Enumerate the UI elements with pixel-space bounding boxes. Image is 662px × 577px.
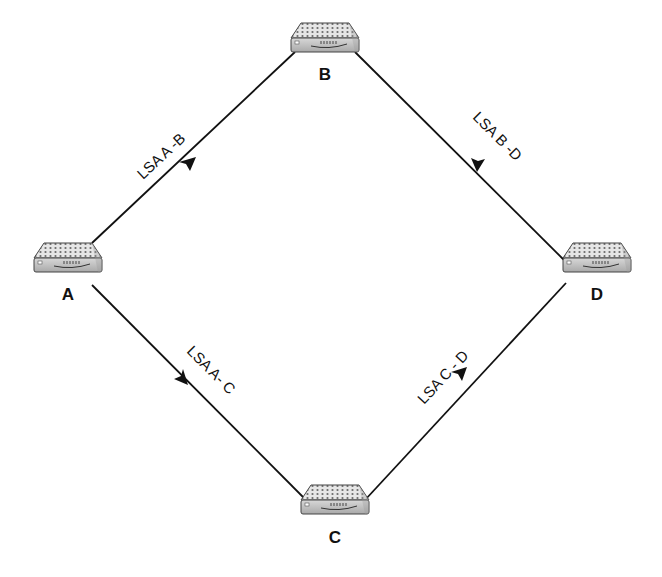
router-icon bbox=[301, 485, 369, 514]
link-b-d: LSA B -D bbox=[355, 52, 566, 262]
node-label-d: D bbox=[591, 285, 603, 304]
router-a[interactable]: A bbox=[34, 243, 102, 304]
router-c[interactable]: C bbox=[301, 485, 369, 547]
node-label-c: C bbox=[329, 528, 341, 547]
node-label-b: B bbox=[319, 65, 331, 84]
link-label-b-d: LSA B -D bbox=[470, 108, 526, 164]
link-c-d: LSA C - D bbox=[365, 283, 566, 500]
router-icon bbox=[291, 23, 359, 52]
link-label-a-c: LSA A- C bbox=[184, 342, 239, 397]
link-label-a-b: LSA A -B bbox=[133, 129, 188, 182]
link-a-b: LSA A -B bbox=[92, 52, 295, 243]
router-icon bbox=[563, 243, 631, 272]
arrow-icon bbox=[174, 369, 188, 385]
router-d[interactable]: D bbox=[563, 243, 631, 304]
link-a-c: LSA A- C bbox=[92, 285, 306, 500]
node-label-a: A bbox=[62, 285, 74, 304]
network-diagram: LSA A -B LSA B -D LSA A- C LSA C - D A B… bbox=[0, 0, 662, 577]
router-icon bbox=[34, 243, 102, 272]
router-b[interactable]: B bbox=[291, 23, 359, 84]
